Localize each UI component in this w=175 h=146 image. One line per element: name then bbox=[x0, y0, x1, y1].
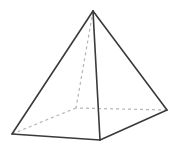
pyramid-face-right bbox=[93, 11, 167, 140]
square-pyramid-drawing bbox=[0, 0, 175, 146]
pyramid-face-left bbox=[12, 11, 100, 140]
pyramid-figure-container bbox=[0, 0, 175, 146]
